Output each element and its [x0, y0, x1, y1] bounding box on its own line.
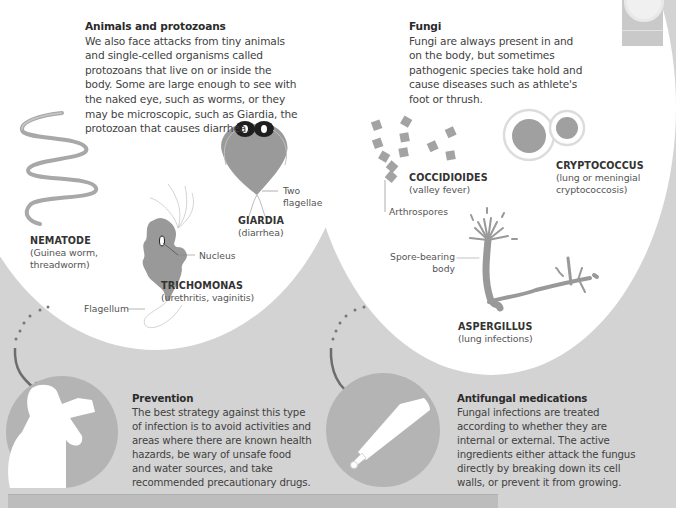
- animals-body-line: and single-celled organisms called: [85, 48, 325, 63]
- callout-line: flagellae: [283, 197, 322, 209]
- aspergillus-icon: [457, 208, 597, 308]
- aspergillus-desc: (lung infections): [458, 333, 533, 345]
- antifungal-body-line: walls, or prevent it from growing.: [457, 476, 657, 490]
- prevention-body-line: hazards, be wary of unsafe food: [132, 448, 332, 462]
- animals-body-line: the naked eye, such as worms, or they: [85, 92, 325, 107]
- antifungal-body-line: directly by breaking down its cell: [457, 462, 657, 476]
- giardia-flagellae-callout: Two flagellae: [283, 185, 322, 208]
- fungi-body-line: cause diseases such as athlete's: [409, 77, 629, 92]
- animals-body-line: We also face attacks from tiny animals: [85, 34, 325, 49]
- fungi-body-line: on the body, but sometimes: [409, 48, 629, 63]
- coccidioides-label: COCCIDIOIDES (valley fever): [409, 172, 488, 196]
- aspergillus-label: ASPERGILLUS (lung infections): [458, 321, 533, 345]
- nematode-desc: threadworm): [30, 259, 98, 271]
- trichomonas-icon: [127, 184, 195, 328]
- prevention-body-line: The best strategy against this type: [132, 406, 332, 420]
- fungi-body-line: foot or thrush.: [409, 92, 629, 107]
- cryptococcus-name: CRYPTOCOCCUS: [556, 160, 644, 172]
- coccidioides-icon: [371, 116, 457, 212]
- giardia-name: GIARDIA: [238, 215, 284, 227]
- prevention-body-line: recommended precautionary drugs.: [132, 476, 332, 490]
- nematode-label: NEMATODE (Guinea worm, threadworm): [30, 235, 98, 271]
- trichomonas-label: TRICHOMONAS (urethritis, vaginitis): [161, 280, 254, 304]
- antifungal-section-text: Antifungal medications Fungal infections…: [457, 392, 657, 490]
- animals-body-line: protozoan that causes diarrhea.: [85, 121, 325, 136]
- prevention-body-line: of infection is to avoid activities and: [132, 420, 332, 434]
- fungi-body-line: Fungi are always present in and: [409, 34, 629, 49]
- animals-body-line: may be microscopic, such as Giardia, the: [85, 107, 325, 122]
- coccidioides-desc: (valley fever): [409, 184, 488, 196]
- flagellum-callout: Flagellum: [84, 303, 129, 315]
- animals-section-title: Animals and protozoans: [85, 19, 325, 34]
- giardia-label: GIARDIA (diarrhea): [238, 215, 284, 239]
- fungi-body-line: pathogenic species take hold and: [409, 63, 629, 78]
- arthrospores-callout: Arthrospores: [389, 206, 448, 218]
- antifungal-body-line: according to whether they are: [457, 420, 657, 434]
- prevention-title: Prevention: [132, 392, 332, 406]
- trichomonas-desc: (urethritis, vaginitis): [161, 292, 254, 304]
- callout-line: Spore-bearing: [389, 251, 455, 263]
- callout-line: Two: [283, 185, 322, 197]
- fungi-section-title: Fungi: [409, 19, 629, 34]
- antifungal-body-line: Fungal infections are treated: [457, 406, 657, 420]
- animals-section-text: Animals and protozoans We also face atta…: [85, 19, 325, 136]
- animals-body-line: protozoans that live on or inside the: [85, 63, 325, 78]
- bottom-divider-bar: [8, 494, 498, 508]
- fungi-section-text: Fungi Fungi are always present in and on…: [409, 19, 629, 107]
- prevention-body-line: and water sources, and take: [132, 462, 332, 476]
- prevention-body-line: areas where there are known health: [132, 434, 332, 448]
- ointment-tube-icon: [326, 373, 440, 487]
- cryptococcus-desc: (lung or meningial: [556, 172, 644, 184]
- cryptococcus-label: CRYPTOCOCCUS (lung or meningial cryptoco…: [556, 160, 644, 196]
- nematode-desc: (Guinea worm,: [30, 247, 98, 259]
- animals-body-line: body. Some are large enough to see with: [85, 77, 325, 92]
- antifungal-title: Antifungal medications: [457, 392, 657, 406]
- nucleus-callout: Nucleus: [199, 250, 236, 262]
- trichomonas-name: TRICHOMONAS: [161, 280, 254, 292]
- aspergillus-name: ASPERGILLUS: [458, 321, 533, 333]
- nematode-name: NEMATODE: [30, 235, 98, 247]
- prevention-section-text: Prevention The best strategy against thi…: [132, 392, 332, 490]
- coccidioides-name: COCCIDIOIDES: [409, 172, 488, 184]
- antifungal-body-line: internal or external. The active: [457, 434, 657, 448]
- cryptococcus-desc: cryptococcosis): [556, 184, 644, 196]
- spore-bearing-callout: Spore-bearing body: [389, 251, 455, 274]
- callout-line: body: [389, 263, 455, 275]
- giardia-desc: (diarrhea): [238, 227, 284, 239]
- antifungal-body-line: ingredients either attack the fungus: [457, 448, 657, 462]
- cryptococcus-icon: [504, 110, 584, 160]
- person-drinking-icon: [6, 376, 118, 488]
